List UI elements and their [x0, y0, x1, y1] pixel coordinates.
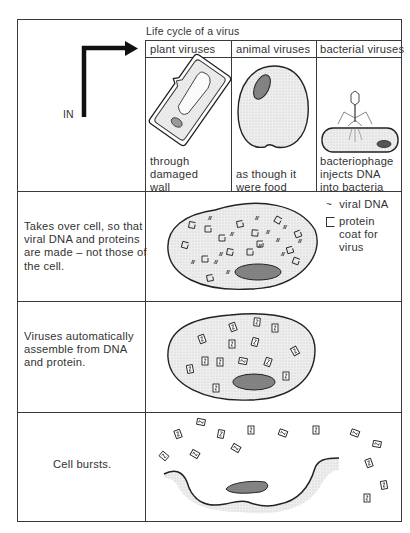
- virus-particle-icon: [159, 451, 169, 461]
- virus-particle-icon: [248, 426, 254, 434]
- virus-particle-icon: [283, 372, 289, 380]
- released-viruses: [159, 418, 388, 502]
- plant-cell-illustration: [145, 51, 232, 147]
- virus-particle-icon: [190, 449, 200, 458]
- virus-particle-icon: [364, 494, 370, 502]
- virus-particle-icon: [231, 443, 241, 452]
- virus-particle-icon: [174, 429, 182, 439]
- virus-particle-icon: [213, 384, 219, 392]
- virus-particle-icon: [202, 357, 208, 365]
- virus-particle-icon: [186, 365, 193, 374]
- virus-particle-icon: [239, 357, 248, 364]
- virus-particle-icon: [278, 429, 288, 437]
- virus-particle-icon: [217, 430, 224, 439]
- virus-particle-icon: [313, 426, 319, 434]
- takeover-cell-illustration: [168, 203, 317, 289]
- virus-particle-icon: [350, 429, 360, 437]
- virus-particle-icon: [365, 458, 373, 468]
- virus-particle-icon: [254, 318, 261, 326]
- virus-particle-icon: [229, 340, 235, 348]
- burst-cell-illustration: [164, 458, 339, 513]
- virus-particle-icon: [197, 418, 206, 425]
- virus-particle-icon: [272, 324, 278, 332]
- animal-cell-illustration: [238, 66, 308, 147]
- virus-particle-icon: [380, 481, 387, 490]
- illustrations: [0, 0, 410, 533]
- virus-particle-icon: [217, 358, 223, 366]
- bacterium-with-bacteriophage-illustration: [322, 91, 398, 152]
- virus-particle-icon: [373, 440, 382, 447]
- assembly-cell-illustration: [168, 314, 315, 400]
